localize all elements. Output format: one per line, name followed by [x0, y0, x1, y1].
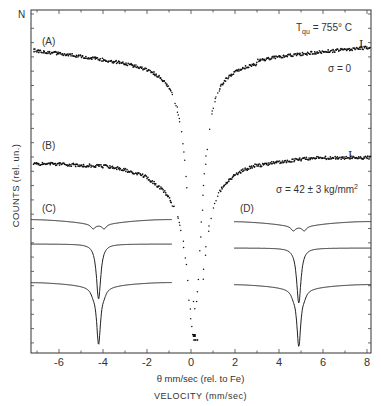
x-axis-label: θ mm/sec (rel. to Fe): [0, 373, 381, 384]
plot-area: I I: [0, 0, 381, 406]
panel-label-a: (A): [42, 36, 55, 47]
x-tick-label: 4: [276, 356, 282, 368]
mossbauer-figure: I I N COUNTS (rel. un.) (A) (B) (C) (D) …: [0, 0, 381, 406]
x-tick-label: 0: [188, 356, 194, 368]
x-tick-label: 2: [232, 356, 238, 368]
y-axis-label: COUNTS (rel. un.): [10, 131, 21, 241]
error-bar-icon-a: I: [359, 38, 363, 51]
panel-label-d: (D): [240, 203, 254, 214]
temperature-annotation: Tqu = 755° C: [296, 22, 352, 35]
series-a-points: [33, 45, 371, 309]
y-top-marker: N: [18, 9, 25, 20]
plot-frame: [31, 10, 371, 353]
panel-label-b: (B): [42, 140, 55, 151]
inset-c-curves: [31, 220, 172, 345]
error-bar-icon-b: I: [348, 149, 352, 162]
x-tick-label: -4: [98, 356, 108, 368]
x-axis-label-secondary: VELOCITY (mm/sec): [0, 391, 381, 401]
x-tick-label: 6: [320, 356, 326, 368]
x-tick-label: -2: [142, 356, 152, 368]
sigma-a-annotation: σ = 0: [328, 63, 351, 74]
x-tick-label: -6: [54, 356, 64, 368]
axis-ticks: [31, 10, 371, 353]
x-tick-label: 8: [364, 356, 370, 368]
inset-d-curves: [234, 222, 371, 347]
sigma-b-annotation: σ = 42 ± 3 kg/mm2: [276, 183, 358, 195]
panel-label-c: (C): [42, 203, 56, 214]
